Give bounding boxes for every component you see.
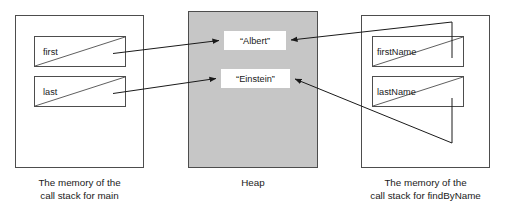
variable-label-firstname: firstName bbox=[377, 47, 416, 57]
caption-main-stack-line2: call stack for main bbox=[40, 190, 118, 201]
memory-diagram: first last firstName lastName “Albert” “… bbox=[0, 0, 505, 212]
caption-findbyname-stack-line1: The memory of the bbox=[384, 177, 467, 188]
heap-string-label-einstein: “Einstein” bbox=[236, 74, 275, 84]
variable-label-last: last bbox=[43, 87, 58, 97]
caption-heap: Heap bbox=[241, 177, 265, 188]
diagram-canvas: first last firstName lastName “Albert” “… bbox=[0, 0, 505, 212]
variable-label-lastname: lastName bbox=[377, 87, 416, 97]
caption-main-stack-line1: The memory of the bbox=[38, 177, 121, 188]
heap-string-label-albert: “Albert” bbox=[240, 36, 270, 46]
variable-label-first: first bbox=[43, 47, 58, 57]
caption-findbyname-stack-line2: call stack for findByName bbox=[370, 190, 481, 201]
